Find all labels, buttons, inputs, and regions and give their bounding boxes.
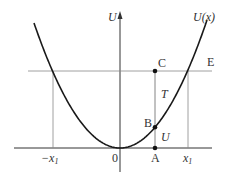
point-a (153, 146, 158, 151)
y-axis-label: U (108, 10, 118, 24)
curve-label: U(x) (193, 10, 215, 24)
point-c-label: C (158, 56, 166, 70)
point-c (153, 69, 158, 74)
point-b-label: B (144, 116, 152, 130)
kinetic-label: T (161, 87, 169, 101)
energy-label: E (207, 55, 214, 69)
y-axis-arrow-icon (118, 11, 123, 19)
point-a-label: A (151, 151, 160, 165)
origin-label: 0 (112, 151, 118, 165)
point-b (153, 125, 158, 130)
potential-label: U (161, 130, 171, 144)
x1-label: x1 (182, 151, 192, 166)
energy-diagram: U U(x) E C T B U A 0 −x1 x1 (0, 0, 231, 180)
neg-x1-label: −x1 (41, 151, 58, 166)
